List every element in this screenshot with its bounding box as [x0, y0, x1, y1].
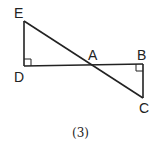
segment-db — [24, 64, 143, 66]
label-d: D — [14, 69, 24, 85]
figure-caption: (3) — [72, 126, 89, 140]
label-c: C — [139, 100, 149, 116]
geometry-figure: E D A B C (3) — [0, 0, 158, 141]
right-angle-b-icon — [136, 64, 143, 71]
label-a: A — [88, 47, 98, 63]
label-e: E — [14, 5, 23, 21]
label-b: B — [137, 47, 146, 63]
right-angle-d-icon — [24, 59, 31, 66]
segment-ec — [24, 21, 143, 98]
